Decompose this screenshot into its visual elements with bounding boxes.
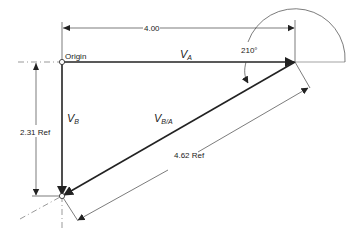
label-vba: VB/A <box>154 112 173 125</box>
angle-arc <box>248 9 345 62</box>
dimension-label-diagonal: 4.62 Ref <box>174 151 205 160</box>
origin-point <box>59 59 64 64</box>
angle-arc-inner <box>245 62 248 83</box>
dimension-arrow-top <box>33 63 39 70</box>
diagonal-centerline <box>20 196 62 219</box>
vector-vba <box>64 62 295 195</box>
origin-label: Origin <box>65 52 86 61</box>
label-vb: VB <box>67 112 79 125</box>
endpoint-b <box>59 193 64 198</box>
extension-line-diag-top <box>295 62 310 88</box>
extension-line-diag-bottom <box>62 196 78 221</box>
dimension-line-diagonal-upper <box>198 88 308 152</box>
angle-label: 210° <box>241 46 258 55</box>
dimension-arrow-left <box>63 25 70 31</box>
dimension-line-diagonal-lower <box>78 170 168 220</box>
vector-diagram: 4.00 2.31 Ref 4.62 Ref 210° Origin VA VB… <box>0 0 360 239</box>
dimension-label-vertical: 2.31 Ref <box>20 128 51 137</box>
dimension-label-horizontal: 4.00 <box>144 24 160 33</box>
label-va: VA <box>180 48 192 61</box>
